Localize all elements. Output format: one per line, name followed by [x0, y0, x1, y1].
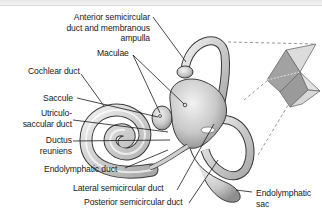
label-line: Anterior semicircular [62, 12, 150, 23]
label-saccule: Saccule [43, 93, 73, 104]
label-line: sac [256, 199, 311, 210]
label-anterior-semicircular-duct: Anterior semicircular duct and membranou… [62, 12, 150, 44]
label-line: Ductus [20, 135, 72, 146]
label-maculae: Maculae [97, 48, 129, 59]
label-endolymphatic-sac: Endolymphatic sac [256, 188, 311, 209]
saccule [152, 106, 172, 130]
label-line: reuniens [20, 146, 72, 157]
label-line: ampulla [62, 33, 150, 44]
label-line: duct and membranous [62, 23, 150, 34]
label-lateral-semicircular-duct: Lateral semicircular duct [73, 183, 164, 194]
semicircular-planes-diagram [267, 44, 320, 107]
label-line: Endolymphatic [256, 188, 311, 199]
label-utriculosaccular-duct: Utriculo- saccular duct [10, 108, 72, 129]
label-cochlear-duct: Cochlear duct [28, 66, 80, 77]
label-endolymphatic-duct: Endolymphatic duct [44, 164, 117, 175]
label-ductus-reuniens: Ductus reuniens [20, 135, 72, 156]
label-posterior-semicircular-duct: Posterior semicircular duct [84, 197, 183, 208]
label-line: Utriculo- [10, 108, 72, 119]
label-line: saccular duct [10, 119, 72, 130]
utricle [170, 79, 227, 148]
